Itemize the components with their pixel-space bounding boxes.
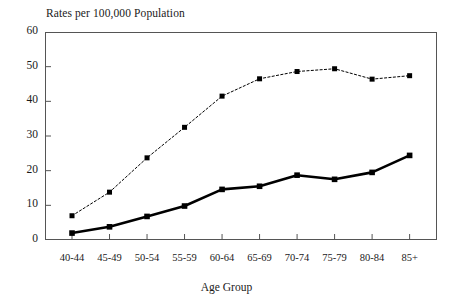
x-axis-tick-label: 50-54 [135, 252, 160, 263]
y-axis-tick-label: 10 [4, 197, 38, 209]
y-axis-tick-label: 50 [4, 59, 38, 71]
x-axis-tick-label: 70-74 [285, 252, 310, 263]
y-axis-tick-label: 0 [4, 232, 38, 244]
x-axis-tick-label: 55-59 [172, 252, 197, 263]
x-axis-tick-label: 60-64 [210, 252, 235, 263]
x-axis-tick-label: 85+ [401, 252, 417, 263]
y-axis-tick-label: 30 [4, 128, 38, 140]
x-axis-tick-label: 80-84 [360, 252, 385, 263]
y-axis-tick-label: 60 [4, 24, 38, 36]
x-axis-tick-label: 65-69 [247, 252, 272, 263]
y-axis-tick-label: 40 [4, 93, 38, 105]
chart-figure: Rates per 100,000 Population 01020304050… [0, 0, 453, 308]
plot-area-frame [45, 32, 437, 240]
x-axis-tick-label: 45-49 [97, 252, 122, 263]
y-axis-tick-label: 20 [4, 163, 38, 175]
x-axis-title: Age Group [0, 281, 453, 293]
chart-title: Rates per 100,000 Population [46, 7, 185, 19]
x-axis-tick-label: 40-44 [60, 252, 85, 263]
x-axis-tick-label: 75-79 [322, 252, 347, 263]
